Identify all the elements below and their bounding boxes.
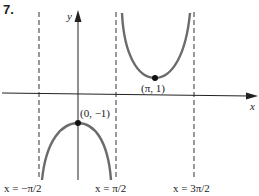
upper-branch-curve <box>122 13 190 78</box>
y-axis-label: y <box>66 10 72 22</box>
sec-graph: 7. x y (π, 1) (0, −1) x = −π/2 x = π/2 x… <box>0 0 259 196</box>
x-axis-label: x <box>249 100 255 112</box>
min-point-label-text: (π, 1) <box>141 82 165 95</box>
x-axis-arrow-icon <box>246 93 258 100</box>
max-point-label: (0, −1) <box>80 107 110 120</box>
min-point-marker <box>152 75 158 81</box>
asymptote-right-label: x = 3π/2 <box>173 182 210 194</box>
y-axis-arrow-icon <box>75 10 82 22</box>
max-point-marker <box>75 120 81 126</box>
problem-number: 7. <box>3 2 14 17</box>
lower-branch-curve <box>42 123 111 180</box>
asymptote-left-label: x = −π/2 <box>4 182 42 194</box>
asymptote-mid-label: x = π/2 <box>95 182 126 194</box>
